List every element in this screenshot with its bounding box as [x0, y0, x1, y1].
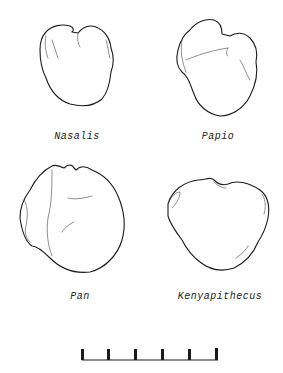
label-kenyapithecus: Kenyapithecus [160, 291, 280, 302]
papio-drawing [177, 19, 257, 116]
label-papio: Papio [158, 131, 278, 142]
specimen-drawings [0, 0, 283, 373]
label-nasalis: Nasalis [17, 131, 137, 142]
nasalis-drawing [40, 25, 113, 106]
scale-bar [81, 348, 218, 360]
label-pan: Pan [20, 291, 140, 302]
figure: Nasalis Papio Pan Kenyapithecus [0, 0, 283, 373]
pan-drawing [20, 165, 124, 272]
kenyapithecus-drawing [168, 178, 269, 270]
